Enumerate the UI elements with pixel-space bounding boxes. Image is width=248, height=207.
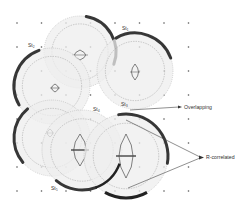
grid-dot	[188, 118, 190, 120]
grid-dot	[41, 46, 43, 48]
grid-dot	[188, 46, 190, 48]
grid-dot	[16, 46, 18, 48]
grid-dot	[139, 22, 141, 24]
st5-circle	[84, 114, 168, 198]
grid-dot	[188, 94, 190, 96]
grid-dot	[16, 190, 18, 192]
station-label-st2: St₂	[28, 42, 35, 48]
r-correlated-label: R-correlated	[206, 154, 235, 160]
st1b-circle	[97, 33, 173, 109]
grid-dot	[188, 190, 190, 192]
grid-dot	[65, 190, 67, 192]
station-label-st4: St₄	[93, 106, 100, 112]
grid-dot	[188, 142, 190, 144]
grid-dot	[114, 22, 116, 24]
grid-dot	[163, 118, 165, 120]
coverage-diagram: St₁ St₂ St₃ St₄ St₅ Overlapping R-correl…	[0, 0, 248, 207]
grid-dot	[41, 22, 43, 24]
grid-dot	[188, 166, 190, 168]
overlapping-label: Overlapping	[184, 104, 212, 110]
grid-dot	[16, 22, 18, 24]
grid-dot	[163, 22, 165, 24]
grid-dot	[41, 190, 43, 192]
grid-dot	[90, 94, 92, 96]
grid-dot	[16, 166, 18, 168]
station-label-st3: St₃	[121, 101, 128, 107]
grid-dot	[188, 70, 190, 72]
grid-dot	[188, 22, 190, 24]
station-label-st5: St₅	[51, 185, 58, 191]
grid-dot	[163, 190, 165, 192]
station-label-st1: St₁	[122, 25, 129, 31]
